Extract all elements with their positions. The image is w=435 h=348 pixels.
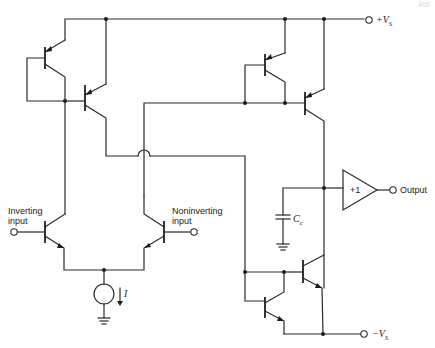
noninverting-input-label-1: Noninverting [172,206,223,216]
positive-supply-terminal [366,17,372,23]
transistor-q3-pnp [243,53,305,105]
inverting-input-label-2: input [8,216,28,226]
noninverting-input-label-2: input [172,216,192,226]
negative-supply-rail [284,332,361,336]
output-terminal [390,187,396,193]
positive-supply-label: +VS [376,14,393,28]
positive-supply-rail [65,17,364,89]
transistor-q7-npn [243,270,286,334]
noninverting-input-terminal[interactable] [191,229,197,235]
transistor-q8-npn [284,255,324,334]
transistor-q1-pnp [27,40,65,101]
circuit-schematic: 405 +VS [0,0,435,348]
inverting-input-label-1: Inverting [8,206,43,216]
transistor-q5-npn-inverting [17,101,104,270]
current-label: I [123,288,128,299]
capacitor-label: Cc [293,213,304,227]
tail-current-source [94,268,123,324]
negative-supply-terminal [361,331,367,337]
page-number: 405 [418,1,430,8]
buffer-gain-label: +1 [350,185,360,195]
wire-to-right-mirror [144,103,245,196]
inverting-input-terminal[interactable] [11,229,17,235]
output-label: Output [400,185,428,195]
transistor-q2-pnp [63,84,138,156]
negative-supply-label: −VS [372,328,389,342]
